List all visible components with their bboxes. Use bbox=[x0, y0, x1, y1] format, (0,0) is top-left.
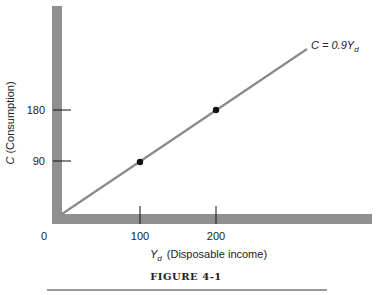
y-tick-label-90: 90 bbox=[33, 155, 45, 167]
x-label-text: (Disposable income) bbox=[167, 248, 267, 260]
point-100-90 bbox=[137, 159, 143, 165]
consumption-function-chart: 180 90 100 200 0 C = 0.9Yd C (Consumptio… bbox=[0, 0, 377, 295]
y-tick-label-180: 180 bbox=[27, 104, 45, 116]
figure-caption: FIGURE 4-1 bbox=[150, 271, 222, 282]
x-tick-label-200: 200 bbox=[207, 230, 225, 242]
consumption-line bbox=[62, 49, 307, 214]
x-axis-label: Yd(Disposable income) bbox=[150, 248, 267, 263]
x-axis bbox=[52, 214, 372, 224]
y-axis-label: C (Consumption) bbox=[4, 81, 16, 164]
x-label-sub: d bbox=[157, 254, 162, 263]
point-200-180 bbox=[213, 107, 219, 113]
y-axis bbox=[52, 6, 62, 224]
y-label-text: (Consumption) bbox=[4, 81, 16, 153]
y-label-var: C bbox=[4, 157, 16, 165]
line-equation-label: C = 0.9Yd bbox=[311, 39, 359, 54]
origin-label: 0 bbox=[41, 230, 47, 242]
equation-sub: d bbox=[354, 45, 359, 54]
x-tick-label-100: 100 bbox=[131, 230, 149, 242]
equation-lhs: C = 0.9 bbox=[311, 39, 347, 51]
